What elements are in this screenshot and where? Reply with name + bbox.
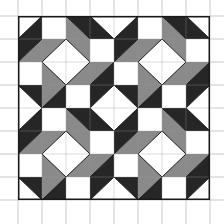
quilt-cell xyxy=(138,108,162,131)
quilt-cell xyxy=(138,154,162,177)
quilt-cell xyxy=(162,85,186,108)
quilt-cell xyxy=(114,39,138,62)
quilt-cell xyxy=(90,131,114,154)
quilt-cell xyxy=(18,85,42,108)
quilt-cell xyxy=(42,62,66,85)
quilt-cell xyxy=(162,62,186,85)
quilt-cell xyxy=(18,108,42,131)
quilt-cell xyxy=(138,85,162,108)
quilt-cell xyxy=(18,131,42,154)
quilt-cell xyxy=(42,154,66,177)
quilt-cell xyxy=(66,85,90,108)
quilt-cell xyxy=(66,108,90,131)
quilt-cell xyxy=(186,85,210,108)
quilt-cell xyxy=(18,16,42,39)
quilt-cell xyxy=(162,16,186,39)
quilt-cell xyxy=(162,108,186,131)
quilt-pattern xyxy=(18,16,210,200)
quilt-cell xyxy=(138,177,162,200)
quilt-cell xyxy=(42,85,66,108)
quilt-cell xyxy=(66,154,90,177)
quilt-cell xyxy=(114,131,138,154)
quilt-cell xyxy=(138,131,162,154)
quilt-cell xyxy=(162,154,186,177)
quilt-cell xyxy=(186,108,210,131)
quilt-cell xyxy=(18,39,42,62)
quilt-cell xyxy=(90,154,114,177)
quilt-cell xyxy=(114,108,138,131)
quilt-cell xyxy=(114,62,138,85)
quilt-cell xyxy=(114,16,138,39)
quilt-cell xyxy=(18,62,42,85)
quilt-cell xyxy=(42,16,66,39)
quilt-cell xyxy=(42,131,66,154)
quilt-cell xyxy=(162,39,186,62)
quilt-cell xyxy=(186,131,210,154)
quilt-cell xyxy=(66,131,90,154)
quilt-cell xyxy=(90,85,114,108)
quilt-cell xyxy=(18,154,42,177)
quilt-cell xyxy=(42,39,66,62)
quilt-cell xyxy=(138,62,162,85)
quilt-cell xyxy=(186,154,210,177)
quilt-cell xyxy=(90,62,114,85)
quilt-cell xyxy=(42,177,66,200)
quilt-cell xyxy=(186,39,210,62)
quilt-cell xyxy=(90,177,114,200)
quilt-cell xyxy=(66,16,90,39)
quilt-cell xyxy=(186,177,210,200)
quilt-cell xyxy=(90,108,114,131)
quilt-cell xyxy=(90,39,114,62)
quilt-cell xyxy=(138,16,162,39)
quilt-cell xyxy=(90,16,114,39)
quilt-cell xyxy=(162,177,186,200)
quilt-cell xyxy=(18,177,42,200)
quilt-cell xyxy=(186,16,210,39)
quilt-cell xyxy=(138,39,162,62)
quilt-cell xyxy=(42,108,66,131)
quilt-cell xyxy=(114,177,138,200)
quilt-tiles xyxy=(18,16,210,200)
quilt-cell xyxy=(114,154,138,177)
quilt-cell xyxy=(66,62,90,85)
quilt-cell xyxy=(186,62,210,85)
quilt-cell xyxy=(66,39,90,62)
quilt-cell xyxy=(114,85,138,108)
quilt-cell xyxy=(162,131,186,154)
quilt-cell xyxy=(66,177,90,200)
